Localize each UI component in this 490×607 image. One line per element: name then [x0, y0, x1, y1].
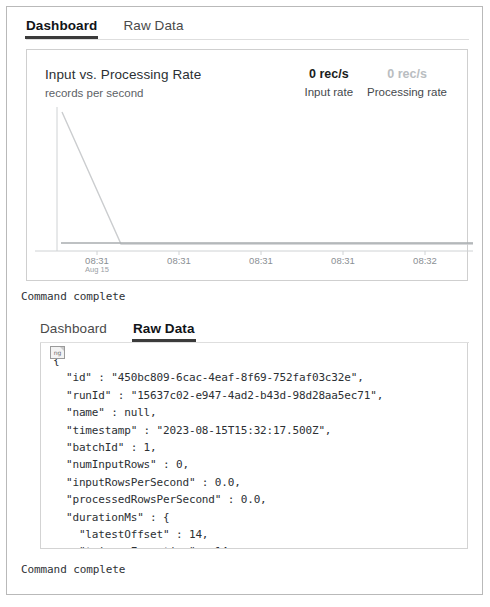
- processing-rate-value: 0 rec/s: [387, 66, 427, 83]
- chart-title: Input vs. Processing Rate: [45, 66, 201, 83]
- broken-image-icon: ng: [50, 346, 65, 359]
- input-rate-value: 0 rec/s: [309, 66, 349, 83]
- raw-json-viewer[interactable]: ng { "id" : "450bc809-6cac-4eaf-8f69-752…: [40, 343, 468, 549]
- x-tick-marks: [97, 251, 425, 255]
- notebook-cell-frame: Dashboard Raw Data Input vs. Processing …: [6, 6, 483, 595]
- dashboard-tabstrip: Dashboard Raw Data: [7, 7, 482, 40]
- rate-legend: 0 rec/s Input rate 0 rec/s Processing ra…: [305, 66, 452, 100]
- command-status-top: Command complete: [7, 281, 482, 303]
- tab-dashboard[interactable]: Dashboard: [26, 18, 97, 39]
- raw-tab-raw-data[interactable]: Raw Data: [133, 321, 195, 342]
- raw-tabstrip: Dashboard Raw Data: [7, 310, 482, 343]
- series-input-rate: [62, 112, 473, 244]
- chart-title-group: Input vs. Processing Rate records per se…: [45, 66, 201, 101]
- command-status-bottom: Command complete: [7, 549, 482, 576]
- chart-panel: Input vs. Processing Rate records per se…: [26, 49, 468, 281]
- rate-line-chart: 08:31 Aug 15 08:31 08:31 08:31 08:32: [27, 103, 467, 273]
- processing-rate-label: Processing rate: [367, 84, 447, 100]
- input-rate-label: Input rate: [305, 84, 354, 100]
- tabs-divider: [26, 39, 469, 40]
- tab-raw-data[interactable]: Raw Data: [123, 18, 183, 39]
- raw-tab-dashboard[interactable]: Dashboard: [40, 321, 107, 342]
- chart-svg: [27, 103, 473, 273]
- chart-subtitle: records per second: [45, 85, 201, 101]
- raw-json-text: { "id" : "450bc809-6cac-4eaf-8f69-752faf…: [41, 343, 467, 549]
- raw-data-section: Dashboard Raw Data ng { "id" : "450bc809…: [7, 310, 482, 549]
- input-rate-stat: 0 rec/s Input rate: [305, 66, 354, 100]
- chart-header: Input vs. Processing Rate records per se…: [27, 50, 467, 101]
- dashboard-tabs: Dashboard Raw Data: [26, 14, 482, 39]
- raw-tabs: Dashboard Raw Data: [40, 317, 482, 342]
- processing-rate-stat: 0 rec/s Processing rate: [367, 66, 447, 100]
